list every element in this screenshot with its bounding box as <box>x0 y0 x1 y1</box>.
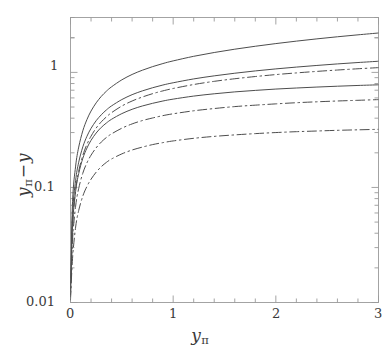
xtick-label-2: 2 <box>272 306 280 321</box>
ytick-label-1: 1 <box>50 58 58 73</box>
y-axis-label-minus: − <box>13 163 33 179</box>
curve-4-solid <box>71 85 379 291</box>
xtick-label-1: 1 <box>169 306 177 321</box>
x-axis-label-subscript: π <box>201 333 209 347</box>
plot-frame <box>71 18 379 303</box>
series-group <box>71 33 379 300</box>
curve-6-dashdot <box>71 129 379 300</box>
y-axis-label-subscript: π <box>21 179 35 187</box>
curve-2-solid <box>71 61 379 288</box>
xtick-label-0: 0 <box>66 306 74 321</box>
plot-canvas <box>0 0 390 355</box>
y-axis-label-base: y <box>13 187 33 197</box>
xtick-label-3: 3 <box>374 306 382 321</box>
curve-3-dashdot <box>71 68 379 295</box>
y-axis-label-tail: y <box>13 153 33 163</box>
x-axis-label-base: y <box>191 325 201 345</box>
ytick-label-0-01: 0.01 <box>26 294 55 309</box>
x-axis-label: yπ <box>160 325 240 347</box>
figure: 0.01 0.1 1 0 1 2 3 yπ−y yπ <box>0 0 390 355</box>
y-axis-label-wrapper: yπ−y <box>2 120 42 230</box>
curve-1-solid <box>71 33 379 285</box>
y-axis-label: yπ−y <box>13 127 35 223</box>
curve-5-dashdot <box>71 100 379 297</box>
